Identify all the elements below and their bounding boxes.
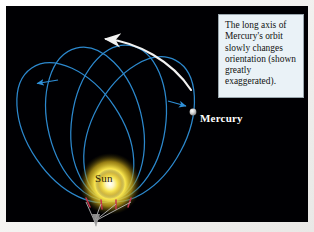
orbit-direction-arrow-right <box>168 101 186 106</box>
caption-text: The long axis of Mercury's orbit slowly … <box>225 20 299 88</box>
mercury-planet-dot <box>190 109 197 116</box>
precession-direction-arrow <box>106 39 191 90</box>
caption-box: The long axis of Mercury's orbit slowly … <box>218 14 304 98</box>
mercury-label: Mercury <box>200 112 243 124</box>
sky-plate: Sun Mercury The long axis of Mercury's o… <box>6 6 308 222</box>
figure-root: Sun Mercury The long axis of Mercury's o… <box>0 0 314 232</box>
sun-label: Sun <box>95 172 113 184</box>
